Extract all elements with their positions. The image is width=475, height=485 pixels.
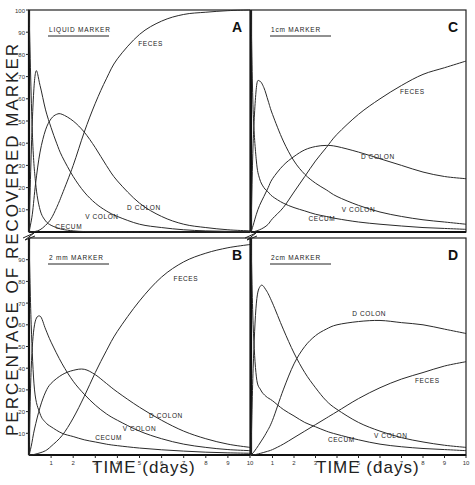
- series-label: D COLON: [127, 204, 161, 211]
- series-d-colon: [29, 369, 250, 455]
- series-cecum: [251, 238, 466, 451]
- panel-marker-title: 2cm MARKER: [271, 254, 321, 261]
- panel-marker-title: 2 mm MARKER: [49, 254, 104, 261]
- x-axis-label-left: TIME (days): [92, 458, 196, 478]
- series-label: V COLON: [123, 425, 156, 432]
- series-label: FECES: [138, 40, 163, 47]
- series-label: FECES: [400, 88, 425, 95]
- panel-letter: C: [448, 19, 458, 35]
- series-label: CECUM: [328, 436, 355, 443]
- series-label: V COLON: [85, 213, 118, 220]
- panel-c: FECESD COLONV COLONCECUM1cm MARKERC: [251, 10, 466, 232]
- panel-letter: D: [448, 247, 458, 263]
- y-tick-label: 100: [15, 8, 26, 14]
- series-d-colon: [251, 320, 466, 455]
- x-tick-label: 2: [72, 460, 76, 466]
- series-label: CECUM: [95, 434, 122, 441]
- series-label: FECES: [415, 377, 440, 384]
- series-d-colon: [251, 145, 466, 232]
- x-tick-label: 2: [292, 460, 296, 466]
- x-tick-label: 8: [204, 460, 208, 466]
- series-label: CECUM: [309, 215, 336, 222]
- x-tick-label: 9: [226, 460, 230, 466]
- series-feces: [29, 245, 250, 456]
- series-label: V COLON: [374, 432, 407, 439]
- panel-frame: [29, 238, 250, 455]
- series-label: CECUM: [55, 223, 82, 230]
- series-cecum: [251, 10, 466, 229]
- series-label: V COLON: [342, 206, 375, 213]
- panel-b: 10203040506070809012345678910FECESD COLO…: [18, 238, 254, 466]
- panel-marker-title: LIQUID MARKER: [49, 26, 111, 34]
- series-label: D COLON: [352, 310, 386, 317]
- x-tick-label: 1: [49, 460, 53, 466]
- series-label: D COLON: [149, 412, 183, 419]
- x-tick-label: 8: [421, 460, 425, 466]
- x-tick-label: 1: [271, 460, 275, 466]
- x-tick-label: 10: [247, 460, 254, 466]
- x-axis-label-right: TIME (days): [316, 458, 420, 478]
- panel-marker-title: 1cm MARKER: [271, 26, 321, 33]
- series-cecum: [29, 238, 250, 453]
- series-v-colon: [29, 316, 250, 455]
- x-tick-label: 10: [463, 460, 470, 466]
- panel-letter: A: [232, 19, 242, 35]
- panel-a: 102030405060708090100FECESD COLONV COLON…: [15, 8, 250, 233]
- series-label: FECES: [174, 275, 199, 282]
- x-tick-label: 9: [443, 460, 447, 466]
- panel-frame: [251, 10, 466, 232]
- panel-d: 12345678910D COLONFECESV COLONCECUM2cm M…: [251, 238, 470, 466]
- series-d-colon: [29, 114, 250, 232]
- figure: 102030405060708090100FECESD COLONV COLON…: [0, 0, 475, 485]
- y-axis-label: PERCENTAGE OF RECOVERED MARKER: [3, 29, 25, 449]
- series-feces: [251, 362, 466, 455]
- series-label: D COLON: [361, 153, 395, 160]
- panel-letter: B: [232, 247, 242, 263]
